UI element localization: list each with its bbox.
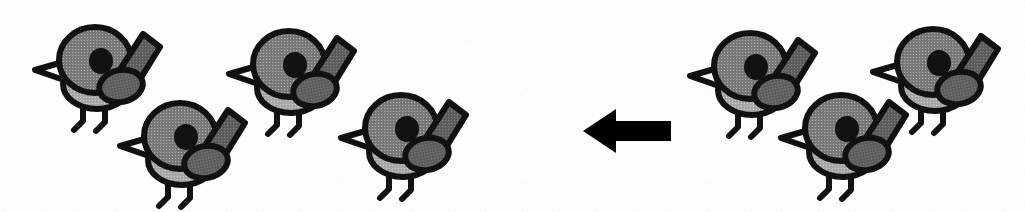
illustration-canvas: Four birds on the left, a large black ar… [0, 0, 1025, 212]
birds-and-arrow-scene [0, 0, 1025, 212]
